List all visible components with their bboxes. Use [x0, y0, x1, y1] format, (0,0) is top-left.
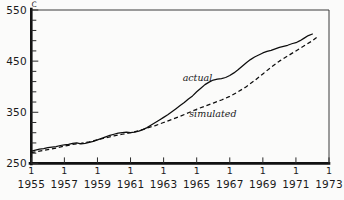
- x-tick-mark-glyph: 1: [260, 165, 266, 176]
- x-tick-label: 1969: [249, 178, 277, 190]
- y-tick-label: 350: [6, 106, 27, 118]
- axis-lines: [30, 9, 329, 164]
- x-tick-label: 1955: [18, 178, 46, 190]
- chart-figure: C 550450350250 1111111111 19551957195919…: [0, 0, 344, 200]
- x-tick-mark-glyph: 1: [61, 165, 67, 176]
- x-tick-label: 1965: [183, 178, 211, 190]
- x-tick-label: 1973: [315, 178, 343, 190]
- x-tick-label: 1959: [84, 178, 112, 190]
- annotation-simulated: simulated: [189, 108, 236, 119]
- series-group: [31, 34, 316, 153]
- y-tick-label: 550: [6, 4, 27, 16]
- y-tick-label: 450: [6, 55, 27, 67]
- x-tick-label: 1957: [51, 178, 79, 190]
- y-axis-tick-labels: 550450350250: [6, 4, 27, 169]
- series-line-actual: [31, 34, 312, 151]
- x-tick-mark-glyph: 1: [326, 165, 332, 176]
- y-tick-label: 250: [6, 157, 27, 169]
- series-annotations: actualsimulated: [183, 72, 237, 119]
- y-axis-unit-label: C: [31, 0, 36, 9]
- x-axis-tick-marks: 1111111111: [28, 165, 332, 176]
- x-tick-mark-glyph: 1: [28, 165, 34, 176]
- x-tick-label: 1961: [117, 178, 145, 190]
- chart-canvas: C 550450350250 1111111111 19551957195919…: [0, 0, 344, 200]
- x-axis-tick-labels: 1955195719591961196319651967196919711973: [18, 178, 343, 190]
- x-tick-mark-glyph: 1: [293, 165, 299, 176]
- x-tick-label: 1963: [150, 178, 178, 190]
- x-tick-mark-glyph: 1: [194, 165, 200, 176]
- x-tick-label: 1967: [216, 178, 244, 190]
- x-tick-mark-glyph: 1: [227, 165, 233, 176]
- series-line-simulated: [31, 38, 316, 153]
- annotation-actual: actual: [183, 72, 213, 83]
- x-tick-mark-glyph: 1: [128, 165, 134, 176]
- x-tick-label: 1971: [282, 178, 310, 190]
- x-tick-mark-glyph: 1: [161, 165, 167, 176]
- x-tick-mark-glyph: 1: [94, 165, 100, 176]
- plot-frame: [31, 10, 329, 163]
